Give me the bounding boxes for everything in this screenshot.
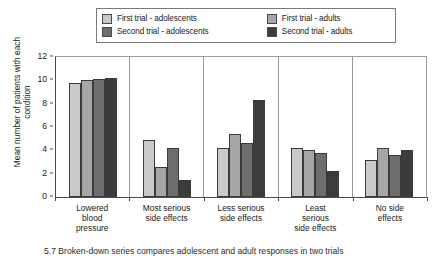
x-tick-mark (204, 197, 205, 201)
bar (315, 153, 327, 197)
bar (105, 78, 117, 197)
legend-label-second-adolescents: Second trial - adolescents (117, 27, 209, 36)
category-label-line: side effects (279, 223, 351, 233)
bar (167, 148, 179, 197)
bar (377, 148, 389, 197)
bar (69, 83, 81, 197)
legend-swatch-first-adults (267, 14, 277, 24)
legend-swatch-first-adolescents (102, 14, 112, 24)
bar-group (353, 57, 426, 197)
legend-entry-second-adults: Second trial - adults (267, 27, 390, 37)
x-tick-mark (353, 197, 354, 201)
chart-legend: First trial - adolescents First trial - … (96, 8, 396, 43)
legend-label-first-adults: First trial - adults (282, 14, 341, 23)
bar (93, 79, 105, 197)
legend-entry-first-adolescents: First trial - adolescents (102, 14, 267, 24)
y-axis-ticks: 024681012 (26, 50, 50, 196)
bar (303, 150, 315, 197)
bar-chart: Mean number of patients with each condit… (0, 50, 436, 200)
bar (401, 150, 413, 197)
bar (365, 160, 377, 197)
bar-group-bars (217, 57, 265, 197)
bar (291, 148, 303, 197)
figure-caption: 5.7 Broken-down series compares adolesce… (44, 246, 434, 256)
category-label-line: Lowered (56, 203, 128, 213)
bar-group (204, 57, 278, 197)
y-tick-label-6: 6 (42, 122, 47, 131)
bar-group-bars (291, 57, 339, 197)
y-tick-mark-6 (50, 126, 53, 127)
x-axis-ticks (55, 197, 427, 201)
legend-swatch-second-adults (267, 27, 277, 37)
bar (143, 140, 155, 197)
bar-group-bars (69, 57, 117, 197)
x-axis-category-label: No sideeffects (353, 203, 427, 234)
category-label-line: effects (354, 213, 426, 223)
y-tick-mark-12 (50, 56, 53, 57)
y-tick-label-8: 8 (42, 98, 47, 107)
legend-row-1: First trial - adolescents First trial - … (102, 12, 390, 25)
y-tick-mark-10 (50, 79, 53, 80)
bar (81, 80, 93, 197)
legend-label-second-adults: Second trial - adults (282, 27, 352, 36)
category-label-line: Least (279, 203, 351, 213)
y-tick-mark-4 (50, 149, 53, 150)
category-label-line: serious (279, 213, 351, 223)
y-tick-label-12: 12 (37, 52, 47, 61)
bar (241, 143, 253, 197)
category-label-line: pressure (56, 223, 128, 233)
legend-entry-second-adolescents: Second trial - adolescents (102, 27, 267, 37)
bar (389, 155, 401, 197)
bar-group (56, 57, 130, 197)
category-label-line: side effects (205, 213, 277, 223)
x-tick-mark (129, 197, 130, 201)
legend-swatch-second-adolescents (102, 27, 112, 37)
x-tick-mark (278, 197, 279, 201)
category-label-line: Most serious (130, 203, 202, 213)
x-tick-mark (55, 197, 56, 201)
x-tick-mark (427, 197, 428, 201)
bar-group (130, 57, 204, 197)
y-tick-mark-2 (50, 172, 53, 173)
category-label-line: blood (56, 213, 128, 223)
x-axis-category-label: Most seriousside effects (129, 203, 203, 234)
legend-entry-first-adults: First trial - adults (267, 14, 390, 24)
x-axis-category-labels: LoweredbloodpressureMost seriousside eff… (55, 203, 427, 234)
legend-label-first-adolescents: First trial - adolescents (117, 14, 197, 23)
bar (327, 171, 339, 197)
category-label-line: No side (354, 203, 426, 213)
bar (179, 180, 191, 198)
y-tick-mark-8 (50, 102, 53, 103)
y-tick-label-0: 0 (42, 192, 47, 201)
bar-group-bars (143, 57, 191, 197)
bar-group (279, 57, 353, 197)
bar (229, 134, 241, 197)
bar (155, 167, 167, 197)
y-tick-mark-0 (50, 196, 53, 197)
y-tick-label-2: 2 (42, 168, 47, 177)
category-label-line: side effects (130, 213, 202, 223)
category-label-line: Less serious (205, 203, 277, 213)
y-tick-label-10: 10 (37, 75, 47, 84)
bar (217, 148, 229, 197)
y-tick-label-4: 4 (42, 145, 47, 154)
x-axis-category-label: Loweredbloodpressure (55, 203, 129, 234)
x-axis-category-label: Leastseriousside effects (278, 203, 352, 234)
bar-group-bars (365, 57, 413, 197)
legend-row-2: Second trial - adolescents Second trial … (102, 25, 390, 38)
x-axis-category-label: Less seriousside effects (204, 203, 278, 234)
bar (253, 100, 265, 197)
plot-area (55, 56, 427, 198)
